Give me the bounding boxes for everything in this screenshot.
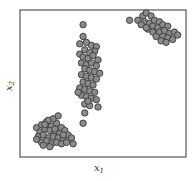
data-point <box>93 96 99 102</box>
data-point <box>126 17 132 23</box>
y-axis-label: x2 <box>3 80 16 91</box>
data-point <box>93 63 99 69</box>
scatter-chart: x1 x2 <box>0 0 193 181</box>
data-point <box>80 22 86 28</box>
data-point <box>90 82 96 88</box>
data-point <box>77 41 83 47</box>
data-point <box>75 89 81 95</box>
data-point <box>92 89 98 95</box>
data-point <box>96 70 102 76</box>
data-point <box>175 32 181 38</box>
x-axis-label: x1 <box>94 162 104 175</box>
data-point <box>80 120 86 126</box>
data-point <box>42 121 48 127</box>
data-point <box>95 57 101 63</box>
data-point <box>85 98 91 104</box>
data-point <box>47 144 53 150</box>
data-point <box>63 139 69 145</box>
data-point <box>33 136 39 142</box>
data-points <box>33 10 181 150</box>
data-point <box>143 24 149 30</box>
data-point <box>52 126 58 132</box>
data-point <box>70 141 76 147</box>
data-point <box>153 33 159 39</box>
data-point <box>40 142 46 148</box>
data-point <box>80 33 86 39</box>
data-point <box>163 39 169 45</box>
data-point <box>82 110 88 116</box>
data-point <box>95 104 101 110</box>
data-point <box>55 113 61 119</box>
data-point <box>93 76 99 82</box>
data-point <box>60 132 66 138</box>
